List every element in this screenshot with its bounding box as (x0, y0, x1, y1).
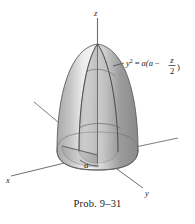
equation-callout: y2=a(a− z 2 ) (125, 55, 180, 76)
y-axis-label: y (144, 188, 149, 198)
svg-text:y2=a(a−: y2=a(a− (125, 58, 160, 68)
equation-rhs-close: ) (177, 62, 180, 72)
equation-fraction-denominator: 2 (170, 66, 174, 76)
z-axis-label: z (93, 8, 98, 18)
equation-lhs-exponent: 2 (130, 58, 133, 64)
paraboloid-figure-svg: z x y a y2=a(a− z 2 ) (0, 0, 195, 224)
equation-equals: = (135, 58, 140, 68)
radius-dimension-label: a (84, 160, 89, 170)
x-axis-label: x (5, 175, 10, 185)
equation-fraction-numerator: z (169, 55, 174, 65)
equation-minus: − (155, 58, 160, 68)
figure-container: z x y a y2=a(a− z 2 ) Prob. 9–31 (0, 0, 195, 224)
figure-caption: Prob. 9–31 (0, 198, 195, 209)
equation-rhs-open: a(a (142, 58, 153, 68)
